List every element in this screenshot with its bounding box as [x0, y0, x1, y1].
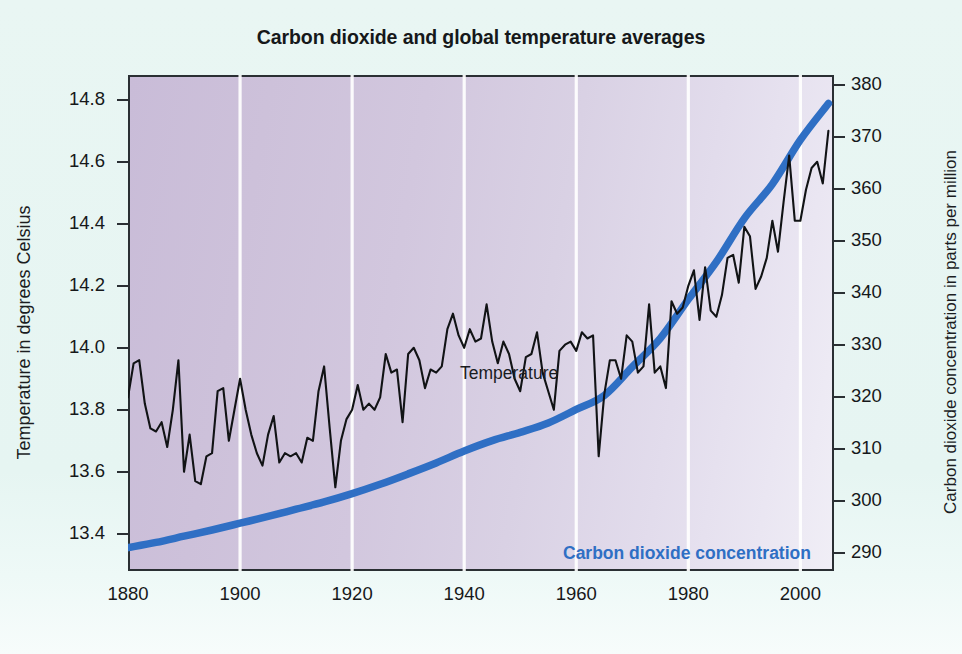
y-tick-label-right-320: 320: [851, 385, 882, 407]
temperature-line: [128, 131, 828, 488]
x-tick-label-1960: 1960: [534, 583, 618, 605]
x-tick-label-1920: 1920: [310, 583, 394, 605]
y-axis-label-right: Carbon dioxide concentration in parts pe…: [941, 82, 961, 582]
tick-right-330: [834, 344, 845, 346]
co2-series-label: Carbon dioxide concentration: [563, 543, 811, 564]
tick-right-370: [834, 136, 845, 138]
x-tick-label-1880: 1880: [86, 583, 170, 605]
plot-area: Temperature Carbon dioxide concentration: [128, 75, 834, 571]
tick-right-340: [834, 292, 845, 294]
y-tick-label-left-14.6: 14.6: [43, 150, 105, 172]
y-tick-label-right-310: 310: [851, 437, 882, 459]
tick-right-350: [834, 240, 845, 242]
y-axis-label-left: Temperature in degrees Celsius: [14, 123, 35, 543]
tick-left-13.4: [117, 533, 128, 535]
tick-right-300: [834, 500, 845, 502]
chart-figure: Carbon dioxide and global temperature av…: [0, 0, 962, 654]
tick-left-13.6: [117, 471, 128, 473]
y-tick-label-right-350: 350: [851, 229, 882, 251]
y-tick-label-right-360: 360: [851, 177, 882, 199]
y-tick-label-left-14.0: 14.0: [43, 336, 105, 358]
x-tick-label-1900: 1900: [198, 583, 282, 605]
y-tick-label-left-14.4: 14.4: [43, 212, 105, 234]
y-tick-label-right-380: 380: [851, 73, 882, 95]
chart-title: Carbon dioxide and global temperature av…: [0, 26, 962, 49]
tick-right-380: [834, 84, 845, 86]
x-tick-label-1980: 1980: [646, 583, 730, 605]
y-tick-label-right-370: 370: [851, 125, 882, 147]
y-tick-label-right-330: 330: [851, 333, 882, 355]
tick-left-14.4: [117, 223, 128, 225]
tick-left-13.8: [117, 409, 128, 411]
y-tick-label-left-13.4: 13.4: [43, 522, 105, 544]
tick-left-14.8: [117, 99, 128, 101]
tick-right-310: [834, 448, 845, 450]
x-tick-label-2000: 2000: [758, 583, 842, 605]
tick-left-14.0: [117, 347, 128, 349]
y-tick-label-left-14.2: 14.2: [43, 274, 105, 296]
y-tick-label-right-290: 290: [851, 541, 882, 563]
co2-line: [128, 104, 828, 548]
tick-right-320: [834, 396, 845, 398]
gridlines-group: [240, 75, 800, 571]
plot-canvas: [128, 75, 834, 571]
y-tick-label-left-13.6: 13.6: [43, 460, 105, 482]
tick-right-360: [834, 188, 845, 190]
y-tick-label-right-300: 300: [851, 489, 882, 511]
tick-left-14.2: [117, 285, 128, 287]
y-tick-label-left-14.8: 14.8: [43, 88, 105, 110]
tick-left-14.6: [117, 161, 128, 163]
x-tick-label-1940: 1940: [422, 583, 506, 605]
y-tick-label-left-13.8: 13.8: [43, 398, 105, 420]
temperature-series-label: Temperature: [460, 363, 558, 384]
tick-right-290: [834, 552, 845, 554]
y-tick-label-right-340: 340: [851, 281, 882, 303]
